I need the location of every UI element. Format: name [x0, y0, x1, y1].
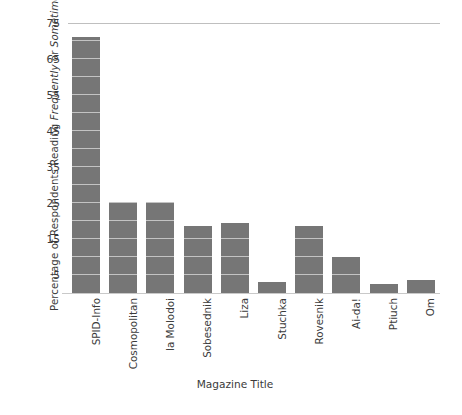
bar[interactable]: [72, 37, 100, 293]
gridline: [295, 256, 323, 257]
gridline: [109, 202, 137, 203]
gridline: [146, 202, 174, 203]
gridline: [221, 256, 249, 257]
gridline: [146, 256, 174, 257]
bar-chart: Percentage of Respondents Reading Freque…: [0, 0, 462, 415]
x-axis-tick-label: Sobesednik: [202, 298, 212, 358]
bar-series: [68, 23, 440, 293]
bar[interactable]: [370, 284, 398, 293]
x-axis-tick-labels: SPID-InfoCosmopolitanla MolodoiSobesedni…: [68, 298, 440, 370]
x-axis-tick-label-slot: Rovesnik: [291, 298, 328, 370]
y-axis-tick-labels: 756555453525155: [32, 0, 60, 415]
y-axis-tick-label: 75: [38, 18, 60, 29]
x-axis-tick-label: SPID-Info: [91, 298, 101, 345]
gridline: [72, 184, 100, 185]
x-axis-tick-label-slot: SPID-Info: [68, 298, 105, 370]
y-axis-tick-label: 5: [38, 270, 60, 281]
bar[interactable]: [295, 226, 323, 293]
gridline: [109, 238, 137, 239]
gridline: [72, 220, 100, 221]
x-axis-tick-label-slot: Ptiuch: [366, 298, 403, 370]
bar[interactable]: [146, 202, 174, 293]
bar[interactable]: [332, 257, 360, 293]
gridline: [184, 256, 212, 257]
gridline: [109, 274, 137, 275]
x-axis-tick-label: Rovesnik: [314, 298, 324, 345]
bar[interactable]: [221, 223, 249, 293]
gridline: [146, 220, 174, 221]
bar[interactable]: [109, 202, 137, 293]
gridline: [146, 238, 174, 239]
bar[interactable]: [184, 226, 212, 293]
plot-area: [68, 23, 440, 293]
y-axis-tick-label: 55: [38, 90, 60, 101]
gridline: [72, 40, 100, 41]
x-axis-tick-label-slot: la Molodoi: [142, 298, 179, 370]
bar[interactable]: [258, 282, 286, 293]
gridline: [72, 274, 100, 275]
gridline: [72, 202, 100, 203]
gridline: [332, 274, 360, 275]
x-axis-tick-label: Cosmopolitan: [128, 298, 138, 369]
gridline: [146, 274, 174, 275]
gridline: [295, 274, 323, 275]
x-axis-tick-label: Ptiuch: [388, 298, 398, 330]
y-axis-tick-label: 45: [38, 126, 60, 137]
gridline: [72, 256, 100, 257]
gridline: [72, 112, 100, 113]
x-axis-tick-label: Ai-da!: [351, 298, 361, 329]
gridline: [221, 238, 249, 239]
x-axis-tick-label-slot: Ai-da!: [328, 298, 365, 370]
gridline: [109, 256, 137, 257]
gridline: [109, 220, 137, 221]
gridline: [295, 238, 323, 239]
gridline: [72, 166, 100, 167]
gridline: [72, 130, 100, 131]
gridline: [184, 274, 212, 275]
gridline: [184, 238, 212, 239]
x-axis-tick-label: Liza: [239, 298, 249, 319]
gridline: [72, 148, 100, 149]
gridline: [72, 58, 100, 59]
gridline: [221, 274, 249, 275]
gridline: [72, 76, 100, 77]
gridline: [72, 238, 100, 239]
y-axis-tick-label: 35: [38, 162, 60, 173]
y-axis-tick-label: 65: [38, 54, 60, 65]
x-axis-line: [62, 293, 440, 294]
y-axis-tick-label: 25: [38, 198, 60, 209]
x-axis-tick-label-slot: Stuchka: [254, 298, 291, 370]
x-axis-tick-label: Om: [425, 298, 435, 316]
bar[interactable]: [407, 280, 435, 293]
y-axis-tick-label: 15: [38, 234, 60, 245]
x-axis-tick-label-slot: Sobesednik: [180, 298, 217, 370]
x-axis-title: Magazine Title: [150, 378, 320, 390]
x-axis-tick-label-slot: Cosmopolitan: [105, 298, 142, 370]
x-axis-tick-label: la Molodoi: [165, 298, 175, 351]
x-axis-tick-label-slot: Om: [403, 298, 440, 370]
x-axis-tick-label: Stuchka: [277, 298, 287, 340]
x-axis-tick-label-slot: Liza: [217, 298, 254, 370]
gridline: [72, 94, 100, 95]
